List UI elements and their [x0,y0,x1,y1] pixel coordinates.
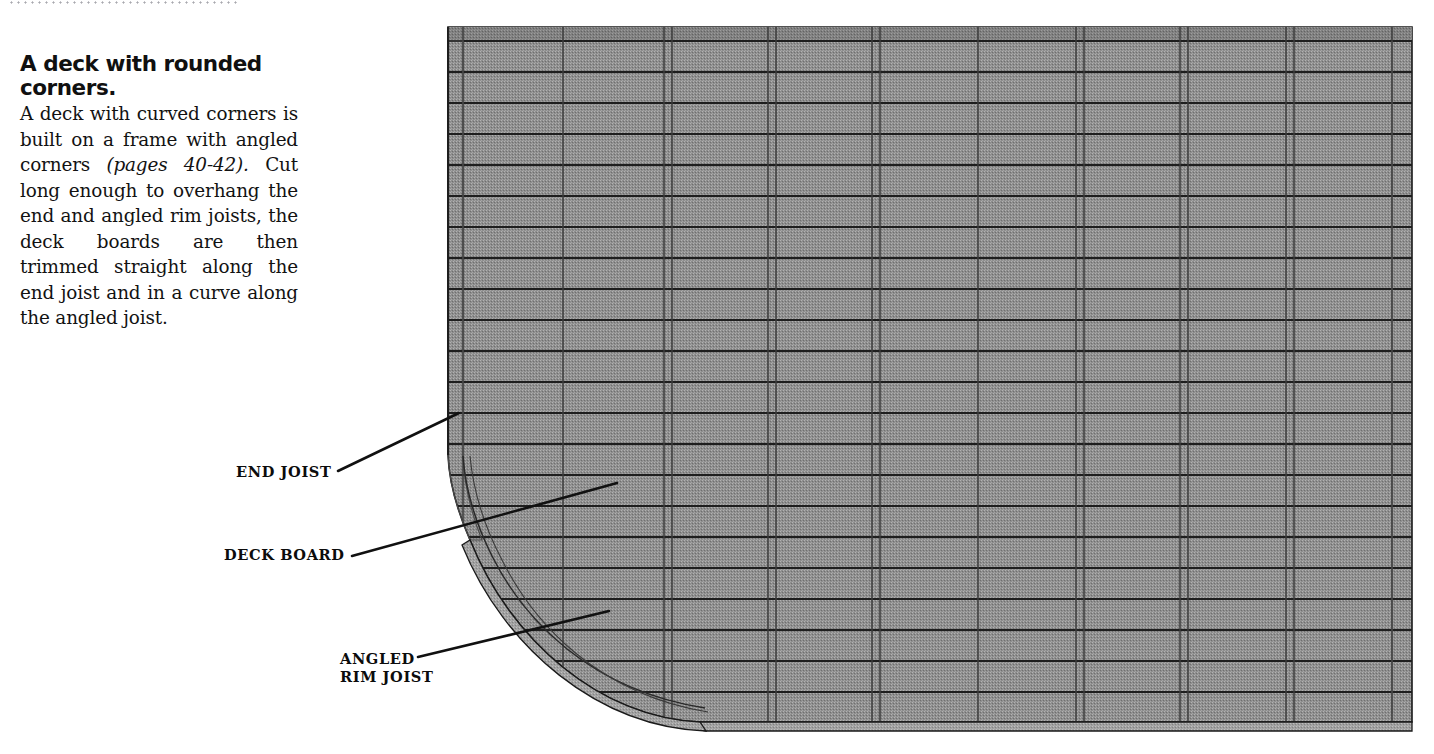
leader-end-joist [338,413,459,471]
deck-bottom-fascia [698,722,1412,731]
deck-surface [440,20,1420,740]
deck-top-face [448,27,1412,722]
deck-top-edge-band [448,27,1412,41]
deck-illustration [0,0,1434,754]
